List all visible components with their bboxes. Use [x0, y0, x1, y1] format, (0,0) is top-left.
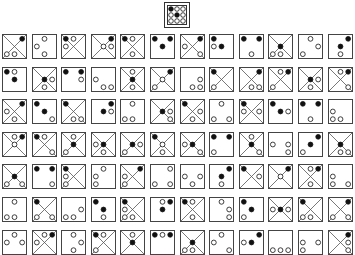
tile-r7-c3[interactable] [61, 230, 86, 255]
tile-r1-c11[interactable] [298, 34, 323, 59]
tile-r1-c4[interactable] [91, 34, 116, 59]
tile-r4-c9[interactable] [239, 132, 264, 157]
tile-r4-c3[interactable] [61, 132, 86, 157]
tile-r4-c12[interactable] [328, 132, 353, 157]
tile-svg [33, 68, 56, 91]
tile-r3-c5[interactable] [120, 99, 145, 124]
tile-r4-c1[interactable] [2, 132, 27, 157]
tile-r5-c6[interactable] [150, 164, 175, 189]
tile-r1-c7[interactable] [180, 34, 205, 59]
tile-r1-c6[interactable] [150, 34, 175, 59]
hollow-dot-icon [130, 102, 135, 107]
tile-r6-c12[interactable] [328, 197, 353, 222]
tile-svg [269, 100, 292, 123]
tile-r6-c11[interactable] [298, 197, 323, 222]
tile-r6-c8[interactable] [209, 197, 234, 222]
tile-r7-c10[interactable] [268, 230, 293, 255]
tile-r5-c5[interactable] [120, 164, 145, 189]
tile-r2-c11[interactable] [298, 67, 323, 92]
tile-r3-c1[interactable] [2, 99, 27, 124]
tile-r5-c8[interactable] [209, 164, 234, 189]
hollow-dot-icon [42, 134, 47, 139]
tile-r3-c11[interactable] [298, 99, 323, 124]
tile-r7-c9[interactable] [239, 230, 264, 255]
tile-r6-c2[interactable] [32, 197, 57, 222]
tile-r2-c9[interactable] [239, 67, 264, 92]
hollow-dot-icon [212, 44, 217, 49]
tile-r5-c10[interactable] [268, 164, 293, 189]
tile-r4-c6[interactable] [150, 132, 175, 157]
tile-svg [240, 68, 263, 91]
tile-r4-c5[interactable] [120, 132, 145, 157]
tile-r3-c3[interactable] [61, 99, 86, 124]
hollow-dot-icon [130, 84, 135, 89]
hollow-dot-icon [169, 19, 174, 24]
tile-r4-c10[interactable] [268, 132, 293, 157]
tile-r5-c3[interactable] [61, 164, 86, 189]
tile-r7-c6[interactable] [150, 230, 175, 255]
tile-r6-c1[interactable] [2, 197, 27, 222]
tile-r2-c12[interactable] [328, 67, 353, 92]
tile-r7-c11[interactable] [298, 230, 323, 255]
hollow-dot-icon [12, 142, 17, 147]
tile-r2-c7[interactable] [180, 67, 205, 92]
tile-r5-c12[interactable] [328, 164, 353, 189]
hollow-dot-icon [300, 240, 305, 245]
hollow-dot-icon [123, 117, 128, 122]
tile-r6-c10[interactable] [268, 197, 293, 222]
tile-r6-c5[interactable] [120, 197, 145, 222]
tile-r4-c2[interactable] [32, 132, 57, 157]
tile-r1-c3[interactable] [61, 34, 86, 59]
tile-r5-c7[interactable] [180, 164, 205, 189]
tile-r1-c9[interactable] [239, 34, 264, 59]
tile-r7-c8[interactable] [209, 230, 234, 255]
tile-r2-c10[interactable] [268, 67, 293, 92]
tile-r2-c8[interactable] [209, 67, 234, 92]
tile-r5-c11[interactable] [298, 164, 323, 189]
tile-r7-c12[interactable] [328, 230, 353, 255]
tile-r3-c12[interactable] [328, 99, 353, 124]
tile-r2-c5[interactable] [120, 67, 145, 92]
tile-r3-c2[interactable] [32, 99, 57, 124]
tile-r6-c3[interactable] [61, 197, 86, 222]
tile-r3-c8[interactable] [209, 99, 234, 124]
tile-r3-c10[interactable] [268, 99, 293, 124]
tile-r7-c5[interactable] [120, 230, 145, 255]
tile-r2-c2[interactable] [32, 67, 57, 92]
tile-r3-c6[interactable] [150, 99, 175, 124]
tile-r7-c7[interactable] [180, 230, 205, 255]
tile-r6-c7[interactable] [180, 197, 205, 222]
tile-r7-c1[interactable] [2, 230, 27, 255]
tile-r4-c11[interactable] [298, 132, 323, 157]
tile-r5-c9[interactable] [239, 164, 264, 189]
tile-r3-c4[interactable] [91, 99, 116, 124]
tile-r6-c9[interactable] [239, 197, 264, 222]
tile-r1-c8[interactable] [209, 34, 234, 59]
tile-r4-c7[interactable] [180, 132, 205, 157]
tile-r5-c2[interactable] [32, 164, 57, 189]
tile-r1-c5[interactable] [120, 34, 145, 59]
tile-r3-c7[interactable] [180, 99, 205, 124]
tile-r7-c4[interactable] [91, 230, 116, 255]
tile-r4-c8[interactable] [209, 132, 234, 157]
tile-r2-c1[interactable] [2, 67, 27, 92]
tile-svg [3, 133, 26, 156]
hollow-dot-icon [241, 109, 246, 114]
tile-r4-c4[interactable] [91, 132, 116, 157]
filled-dot-icon [64, 102, 69, 107]
tile-svg [168, 6, 186, 24]
tile-r5-c4[interactable] [91, 164, 116, 189]
tile-r2-c3[interactable] [61, 67, 86, 92]
tile-r6-c4[interactable] [91, 197, 116, 222]
struck-dot-icon [34, 215, 39, 220]
tile-r2-c6[interactable] [150, 67, 175, 92]
tile-r1-c2[interactable] [32, 34, 57, 59]
tile-r2-c4[interactable] [91, 67, 116, 92]
tile-r1-c10[interactable] [268, 34, 293, 59]
tile-r3-c9[interactable] [239, 99, 264, 124]
tile-r6-c6[interactable] [150, 197, 175, 222]
tile-r5-c1[interactable] [2, 164, 27, 189]
tile-r1-c1[interactable] [2, 34, 27, 59]
tile-r7-c2[interactable] [32, 230, 57, 255]
tile-r1-c12[interactable] [328, 34, 353, 59]
